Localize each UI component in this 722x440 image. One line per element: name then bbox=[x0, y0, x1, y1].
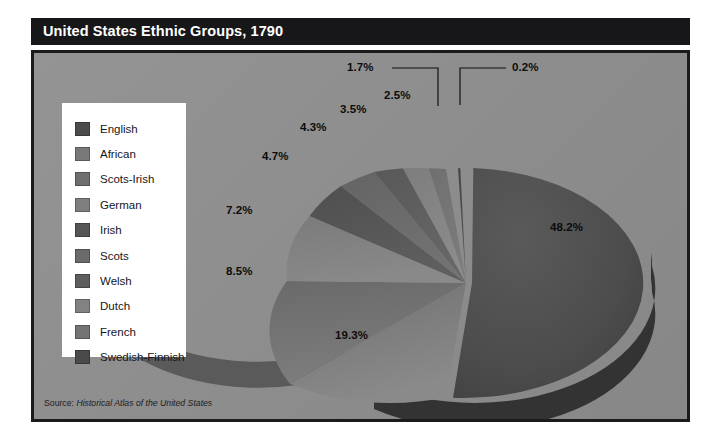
pct-label-dutch: 2.5% bbox=[384, 89, 411, 101]
legend-label-french: French bbox=[100, 326, 136, 338]
legend-item-african[interactable]: African bbox=[62, 141, 186, 166]
pct-label-german: 7.2% bbox=[226, 204, 253, 216]
pct-label-english: 48.2% bbox=[550, 221, 583, 233]
legend-item-welsh[interactable]: Welsh bbox=[62, 268, 186, 293]
legend-label-scots: Scots bbox=[100, 250, 129, 262]
pct-label-swedish-finnish: 0.2% bbox=[512, 61, 539, 73]
page-title: United States Ethnic Groups, 1790 bbox=[43, 23, 283, 39]
ethnic-groups-pie-figure: United States Ethnic Groups, 1790 bbox=[0, 0, 722, 440]
legend-item-scots-irish[interactable]: Scots-Irish bbox=[62, 167, 186, 192]
legend-label-african: African bbox=[100, 148, 136, 160]
legend-swatch-dutch bbox=[75, 299, 90, 313]
source-label: Source: bbox=[44, 398, 74, 408]
legend-label-dutch: Dutch bbox=[100, 300, 130, 312]
legend-item-swedish-finnish[interactable]: Swedish-Finnish bbox=[62, 345, 186, 370]
legend-item-dutch[interactable]: Dutch bbox=[62, 294, 186, 319]
leader-line-swedish-finnish bbox=[460, 68, 506, 105]
legend-swatch-swedish-finnish bbox=[75, 350, 90, 364]
legend-label-english: English bbox=[100, 123, 138, 135]
pct-label-french: 1.7% bbox=[347, 61, 374, 73]
legend-item-scots[interactable]: Scots bbox=[62, 243, 186, 268]
legend-swatch-english bbox=[75, 122, 90, 136]
source-note: Source: Historical Atlas of the United S… bbox=[44, 398, 212, 408]
pct-label-scots: 4.3% bbox=[300, 121, 327, 133]
pct-label-welsh: 3.5% bbox=[340, 103, 367, 115]
legend-swatch-french bbox=[75, 325, 90, 339]
legend-swatch-african bbox=[75, 147, 90, 161]
pie-top-faces bbox=[269, 168, 643, 403]
legend-label-german: German bbox=[100, 199, 142, 211]
legend-swatch-welsh bbox=[75, 274, 90, 288]
legend-item-french[interactable]: French bbox=[62, 319, 186, 344]
pct-label-scots-irish: 8.5% bbox=[226, 265, 253, 277]
legend-swatch-scots bbox=[75, 249, 90, 263]
pct-label-african: 19.3% bbox=[335, 329, 368, 341]
chart-title-bar: United States Ethnic Groups, 1790 bbox=[31, 18, 690, 45]
legend-item-english[interactable]: English bbox=[62, 116, 186, 141]
legend-item-irish[interactable]: Irish bbox=[62, 218, 186, 243]
chart-legend: English African Scots-Irish German Irish… bbox=[62, 103, 186, 357]
legend-swatch-irish bbox=[75, 223, 90, 237]
legend-swatch-german bbox=[75, 198, 90, 212]
pct-label-irish: 4.7% bbox=[262, 150, 289, 162]
legend-item-german[interactable]: German bbox=[62, 192, 186, 217]
legend-label-swedish-finnish: Swedish-Finnish bbox=[100, 351, 184, 363]
legend-swatch-scots-irish bbox=[75, 172, 90, 186]
legend-label-irish: Irish bbox=[100, 224, 122, 236]
slice-side-english-top bbox=[651, 253, 652, 292]
source-title: Historical Atlas of the United States bbox=[76, 398, 212, 408]
legend-label-welsh: Welsh bbox=[100, 275, 132, 287]
legend-label-scots-irish: Scots-Irish bbox=[100, 173, 154, 185]
